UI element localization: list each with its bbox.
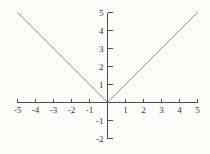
y-tick-label: 5 [99, 8, 104, 18]
y-tick-label: 3 [99, 44, 104, 54]
x-tick-label: -2 [68, 105, 76, 115]
x-tick-label: 2 [141, 105, 146, 115]
x-tick-label: 5 [195, 105, 200, 115]
x-tick-label: 4 [177, 105, 182, 115]
x-tick-label: -5 [14, 105, 22, 115]
x-tick-label: -1 [86, 105, 94, 115]
y-tick-label: 2 [99, 62, 104, 72]
absolute-value-plot: -5-4-3-2-112345-2-112345 [0, 0, 210, 154]
y-tick-label: 4 [99, 26, 104, 36]
x-tick-label: -3 [50, 105, 58, 115]
y-tick-label: -1 [96, 116, 104, 126]
x-tick-label: -4 [32, 105, 40, 115]
x-tick-label: 1 [123, 105, 128, 115]
y-tick-label: -2 [96, 134, 104, 144]
y-tick-label: 1 [99, 80, 104, 90]
x-tick-label: 3 [159, 105, 164, 115]
absolute-value-figure: -5-4-3-2-112345-2-112345 [0, 0, 210, 154]
